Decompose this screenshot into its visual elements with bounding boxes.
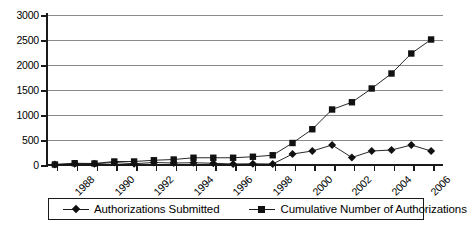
x-tick-mark [374,166,376,171]
y-tick-label: 500 [0,135,39,146]
diamond-marker-icon [63,203,89,215]
y-tick-mark [41,90,47,92]
x-tick-mark [314,166,316,171]
chart-legend: Authorizations Submitted Cumulative Numb… [48,198,424,220]
y-tick-label: 0 [0,160,39,171]
x-tick-mark [116,166,118,171]
x-tick-mark [433,166,435,171]
square-marker-icon [249,203,275,215]
x-tick-mark [57,166,59,171]
y-tick-mark [41,115,47,117]
legend-entry-authorizations-submitted: Authorizations Submitted [63,203,219,215]
x-tick-label: 2002 [350,174,374,198]
x-tick-label: 1988 [72,174,96,198]
x-tick-label: 1996 [231,174,255,198]
x-tick-mark [413,166,415,171]
x-tick-mark [215,166,217,171]
legend-label-authorizations-submitted: Authorizations Submitted [94,203,219,215]
plot-area [47,15,443,165]
legend-entry-cumulative-number-of-authorizations: Cumulative Number of Authorizations [249,203,466,215]
y-tick-mark [41,165,47,167]
gridline [47,40,443,41]
x-tick-mark [97,166,99,171]
y-tick-label: 1500 [0,85,39,96]
y-tick-mark [41,65,47,67]
x-tick-mark [334,166,336,171]
x-tick-mark [255,166,257,171]
y-tick-mark [41,15,47,17]
x-tick-mark [156,166,158,171]
gridline [47,115,443,116]
x-tick-mark [394,166,396,171]
x-tick-mark [196,166,198,171]
x-tick-mark [354,166,356,171]
x-tick-mark [176,166,178,171]
x-tick-label: 2000 [310,174,334,198]
x-tick-label: 1998 [270,174,294,198]
x-tick-label: 2006 [429,174,453,198]
gridline [47,140,443,141]
gridline [47,15,443,16]
x-tick-mark [235,166,237,171]
x-tick-mark [275,166,277,171]
x-tick-mark [136,166,138,171]
y-tick-mark [41,40,47,42]
y-tick-label: 1000 [0,110,39,121]
legend-label-cumulative-number-of-authorizations: Cumulative Number of Authorizations [280,203,466,215]
x-tick-mark [295,166,297,171]
x-tick-mark [77,166,79,171]
gridline [47,65,443,66]
y-tick-mark [41,140,47,142]
x-axis-line [46,164,443,166]
y-tick-label: 3000 [0,10,39,21]
y-tick-label: 2000 [0,60,39,71]
x-tick-label: 1990 [112,174,136,198]
x-tick-label: 1992 [152,174,176,198]
y-tick-label: 2500 [0,35,39,46]
gridline [47,90,443,91]
x-tick-label: 2004 [389,174,413,198]
x-tick-label: 1994 [191,174,215,198]
